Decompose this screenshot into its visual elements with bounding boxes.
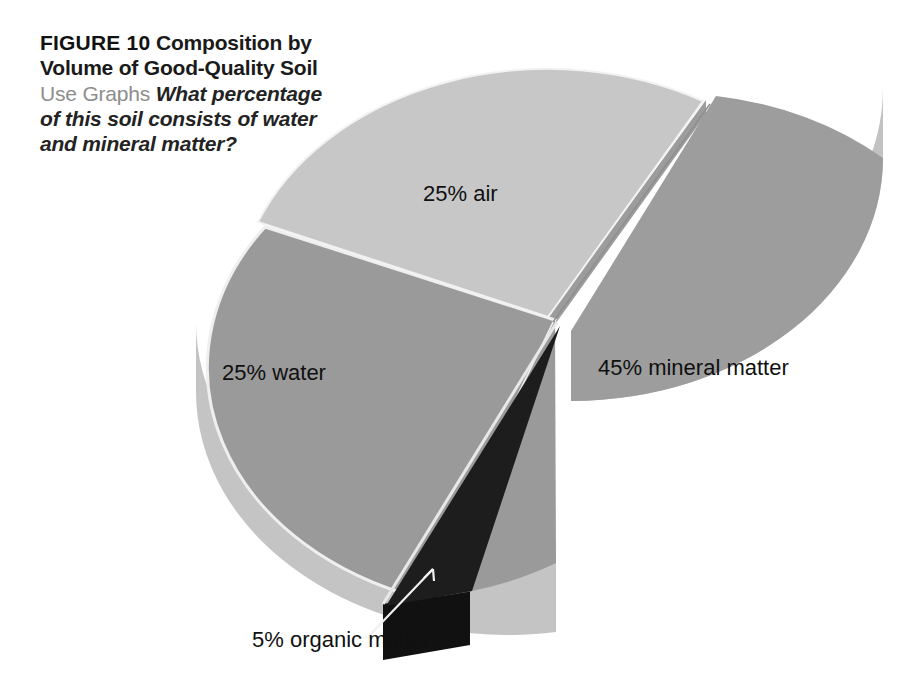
caption-kicker: Use Graphs — [40, 82, 150, 105]
caption-line-1: FIGURE 10 Composition by — [40, 30, 370, 55]
caption-line-2: Volume of Good-Quality Soil — [40, 55, 370, 80]
slice-label-mineral-matter: 45% mineral matter — [598, 355, 789, 381]
caption-question-part-2: of this soil consists of water — [40, 107, 316, 130]
figure-title-part-1: Composition by — [156, 31, 312, 54]
caption-question-part-3: and mineral matter? — [40, 132, 237, 155]
figure-title-part-2: Volume of Good-Quality Soil — [40, 56, 318, 79]
slice-label-organic-matter: 5% organic matter — [252, 627, 431, 653]
caption-line-4: of this soil consists of water — [40, 106, 370, 131]
caption-line-5: and mineral matter? — [40, 131, 370, 156]
caption-question-part-1: What percentage — [156, 82, 322, 105]
figure-caption: FIGURE 10 Composition by Volume of Good-… — [40, 30, 370, 156]
slice-label-air: 25% air — [423, 181, 498, 207]
caption-line-3: Use Graphs What percentage — [40, 81, 370, 106]
figure-number: FIGURE 10 — [40, 31, 150, 54]
figure-page: FIGURE 10 Composition by Volume of Good-… — [0, 0, 919, 673]
slice-label-water: 25% water — [222, 360, 326, 386]
